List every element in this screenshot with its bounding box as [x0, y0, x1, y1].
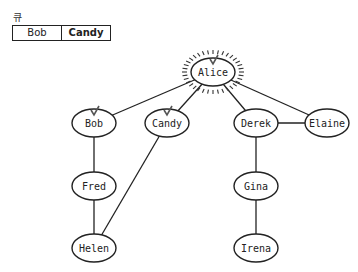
svg-text:Alice: Alice — [198, 67, 228, 78]
svg-text:Gina: Gina — [244, 181, 268, 192]
svg-text:Candy: Candy — [152, 118, 182, 129]
svg-text:Fred: Fred — [82, 181, 106, 192]
svg-text:Elaine: Elaine — [309, 118, 345, 129]
node-candy: Candy — [145, 106, 189, 137]
node-irena: Irena — [234, 234, 278, 262]
node-gina: Gina — [234, 172, 278, 200]
node-elaine: Elaine — [305, 109, 349, 137]
svg-text:Derek: Derek — [241, 118, 271, 129]
svg-text:Helen: Helen — [79, 243, 109, 254]
svg-text:Irena: Irena — [241, 243, 271, 254]
graph-diagram: AliceBobCandyDerekElaineFredGinaHelenIre… — [0, 0, 358, 272]
node-bob: Bob — [72, 106, 116, 137]
node-alice: Alice — [182, 50, 244, 94]
svg-text:Bob: Bob — [85, 118, 103, 129]
node-fred: Fred — [72, 172, 116, 200]
node-helen: Helen — [72, 234, 116, 262]
node-derek: Derek — [234, 109, 278, 137]
